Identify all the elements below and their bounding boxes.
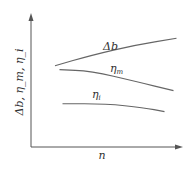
chart: n Δb, η_m, η_i Δb ηm ηi <box>0 0 193 171</box>
y-axis-arrow-icon <box>29 13 34 21</box>
x-axis-label: n <box>98 149 105 162</box>
label-delta-b: Δb <box>102 40 118 53</box>
curve-eta-i <box>63 104 165 112</box>
label-eta-m: ηm <box>110 62 124 76</box>
label-eta-i: ηi <box>92 88 101 102</box>
x-axis-arrow-icon <box>175 145 183 150</box>
y-axis-label: Δb, η_m, η_i <box>13 48 26 116</box>
